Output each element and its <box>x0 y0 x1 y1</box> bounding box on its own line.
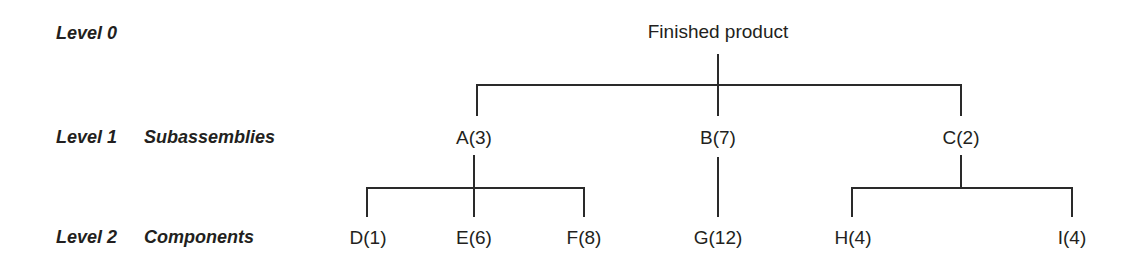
node-finished-product: Finished product <box>648 22 788 41</box>
connector-level1-bus <box>477 84 962 86</box>
connector-a-stem <box>473 155 475 217</box>
connector-drop-h <box>851 187 853 217</box>
node-b: B(7) <box>700 128 736 147</box>
node-h: H(4) <box>835 228 872 247</box>
node-i: I(4) <box>1058 228 1087 247</box>
connector-drop-i <box>1071 187 1073 217</box>
node-e: E(6) <box>456 228 492 247</box>
connector-drop-d <box>366 187 368 217</box>
product-structure-tree-diagram: Level 0 Level 1 Subassemblies Level 2 Co… <box>0 0 1132 272</box>
node-a: A(3) <box>456 128 492 147</box>
connector-c-children-bus <box>852 187 1072 189</box>
connector-drop-c <box>960 84 962 116</box>
level-0-row-label: Level 0 <box>56 24 117 42</box>
node-c: C(2) <box>943 128 980 147</box>
node-f: F(8) <box>567 228 602 247</box>
level-1-description: Subassemblies <box>144 128 275 146</box>
level-2-name: Level 2 <box>56 228 117 246</box>
connector-drop-a <box>476 84 478 116</box>
connector-drop-f <box>583 187 585 217</box>
connector-c-stem <box>960 155 962 188</box>
connector-b-g <box>717 157 719 217</box>
node-g: G(12) <box>694 228 743 247</box>
level-0-name: Level 0 <box>56 24 117 42</box>
level-2-description: Components <box>144 228 254 246</box>
node-d: D(1) <box>350 228 387 247</box>
level-1-name: Level 1 <box>56 128 117 146</box>
level-2-row-label: Level 2 Components <box>56 228 254 246</box>
level-1-row-label: Level 1 Subassemblies <box>56 128 275 146</box>
connector-a-children-bus <box>367 187 585 189</box>
